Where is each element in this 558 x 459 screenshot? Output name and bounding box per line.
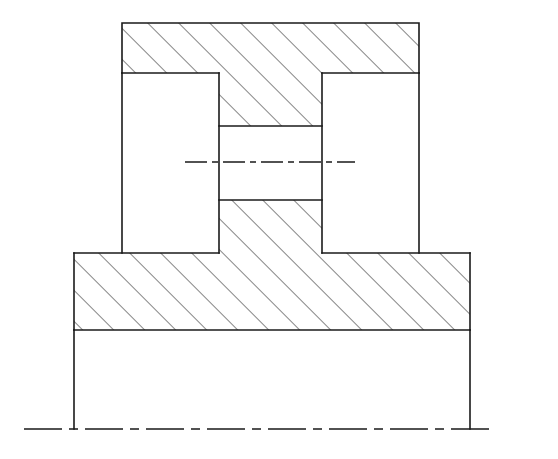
center-column-lower-hatch xyxy=(219,200,322,253)
top-bar-hatch xyxy=(122,23,419,73)
drawing-canvas xyxy=(0,0,558,459)
center-column-upper-hatch xyxy=(219,73,322,126)
sectional-view-drawing xyxy=(0,0,558,459)
base-block-hatch xyxy=(74,253,470,330)
